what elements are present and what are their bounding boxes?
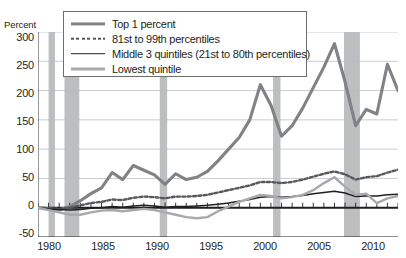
y-axis-tick: 200 — [4, 87, 34, 99]
chart-container: Percent 300 250 200 150 100 50 0 -50 198… — [0, 0, 406, 258]
x-axis-tick: 1995 — [199, 240, 223, 252]
legend-label: Middle 3 quintiles (21st to 80th percent… — [112, 48, 310, 60]
recession-band — [344, 32, 360, 237]
y-axis-tick: 100 — [4, 143, 34, 155]
x-axis-tick: 2000 — [253, 240, 277, 252]
y-axis-tick: 300 — [4, 31, 34, 43]
legend-item-middle-3-quintiles: Middle 3 quintiles (21st to 80th percent… — [71, 46, 300, 61]
x-axis-tick: 2010 — [361, 240, 385, 252]
x-axis-tick: 2005 — [307, 240, 331, 252]
x-axis-tick: 1985 — [91, 240, 115, 252]
thin-black-line-swatch-icon — [71, 49, 105, 59]
chart-legend: Top 1 percent 81st to 99th percentiles M… — [63, 11, 307, 77]
legend-label: Lowest quintile — [112, 63, 181, 75]
legend-item-lowest-quintile: Lowest quintile — [71, 61, 300, 76]
legend-label: 81st to 99th percentiles — [112, 33, 220, 45]
thick-gray-line-swatch-icon — [71, 19, 105, 29]
y-axis-tick-group: 300 250 200 150 100 50 0 -50 — [0, 0, 34, 258]
y-axis-tick: 50 — [4, 171, 34, 183]
recession-band — [49, 32, 55, 237]
legend-item-top-1-percent: Top 1 percent — [71, 16, 300, 31]
y-axis-tick: -50 — [4, 227, 34, 239]
y-axis-tick: 150 — [4, 115, 34, 127]
y-axis-tick: 0 — [4, 199, 34, 211]
x-axis-tick: 1990 — [145, 240, 169, 252]
medium-gray-line-swatch-icon — [71, 64, 105, 74]
legend-item-81st-to-99th: 81st to 99th percentiles — [71, 31, 300, 46]
x-axis-tick: 1980 — [37, 240, 61, 252]
y-axis-tick: 250 — [4, 59, 34, 71]
dotted-line-swatch-icon — [71, 34, 105, 44]
legend-label: Top 1 percent — [112, 18, 175, 30]
